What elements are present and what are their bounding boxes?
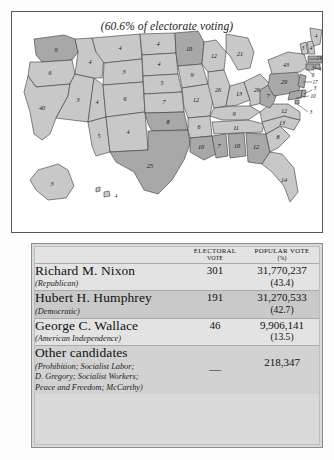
candidate-cell: Richard M. Nixon (Republican) [35,263,187,290]
candidate-party: (Democratic) [35,307,187,318]
electoral-vote-cell: — [187,345,243,393]
ev-label-ME: 4 [315,33,318,39]
header-popular-line1: POPULAR VOTE [255,247,310,254]
candidate-cell: Other candidates (Prohibition; Socialist… [35,345,187,393]
ev-label-PA: 29 [281,78,287,85]
popular-vote-count: 9,906,141 [260,319,304,331]
ev-label-TN: 11 [233,124,239,131]
ev-label-IL: 26 [215,86,222,93]
popular-vote-count: 31,770,237 [257,264,307,276]
candidate-party: (Republican) [35,279,187,290]
ev-label-LA: 10 [198,143,205,150]
ev-label-NM: 4 [126,128,129,135]
party-line: (Prohibition; Socialist Labor; [35,362,187,373]
party-line: D. Gregory; Socialist Workers; [35,372,187,383]
candidate-name: George C. Wallace [35,319,187,334]
popular-vote-cell: 31,270,533 (42.7) [243,291,320,318]
ev-label-RI: 4 [319,66,322,72]
candidate-name: Other candidates [35,346,187,361]
state-DC [295,100,299,104]
ev-label-ND: 4 [156,40,159,47]
electoral-vote-cell: 191 [187,291,243,318]
electoral-vote-cell: 301 [187,263,243,290]
candidate-party: (Prohibition; Socialist Labor; D. Gregor… [35,362,187,394]
ev-label-FL: 14 [281,176,287,183]
ev-label-ID: 4 [88,58,91,65]
table-row: George C. Wallace (American Independence… [35,318,320,345]
candidate-name: Hubert H. Humphrey [35,291,187,306]
ev-label-AL: 10 [234,142,241,149]
ev-label-MD: 10 [310,93,316,99]
party-line: (Republican) [35,279,187,290]
ev-label-IN: 13 [236,90,242,97]
table-header-row: ELECTORAL VOTE POPULAR VOTE (%) [35,247,320,263]
party-line: Peace and Freedom; McCarthy) [35,383,187,394]
ev-label-AK: 3 [49,180,53,187]
header-popular-line2: (%) [243,255,320,262]
ev-label-DE: 3 [314,85,317,91]
ev-label-OH: 26 [254,86,261,93]
table-row: Hubert H. Humphrey (Democratic) 191 31,2… [35,291,320,318]
ev-label-NH: 4 [310,45,313,51]
ev-label-WI: 12 [211,52,217,59]
ev-label-VT: 3 [302,45,305,51]
header-popular-vote: POPULAR VOTE (%) [243,247,320,263]
popular-vote-percent: (13.5) [243,331,320,342]
results-table-inner: ELECTORAL VOTE POPULAR VOTE (%) Richard … [34,246,320,445]
candidate-party: (American Independence) [35,334,187,345]
state-HI-2 [104,191,110,197]
results-table-panel: ELECTORAL VOTE POPULAR VOTE (%) Richard … [31,243,323,448]
ev-label-AZ: 5 [97,132,100,139]
header-electoral-line2: VOTE [187,255,243,262]
ev-label-WY: 3 [121,68,125,75]
ev-label-WA: 9 [54,46,57,53]
ev-label-MA: 14 [316,55,322,61]
state-HI-1 [96,187,100,192]
ev-label-NY: 43 [283,61,289,68]
map-panel: (60.6% of electorate voting) [11,11,323,233]
table-header: ELECTORAL VOTE POPULAR VOTE (%) [35,247,320,263]
header-electoral-line1: ELECTORAL [194,247,237,254]
ev-label-NV: 3 [75,96,79,103]
party-line: (Democratic) [35,307,187,318]
ev-label-HI: 4 [115,193,118,199]
ev-label-MI: 21 [237,50,243,57]
header-candidate [35,247,187,263]
ev-label-GA: 12 [253,143,259,150]
popular-vote-count: 218,347 [264,356,300,368]
election-map-figure: (60.6% of electorate voting) [0,0,334,460]
popular-vote-percent: (43.4) [243,277,320,288]
popular-vote-cell: 31,770,237 (43.4) [243,263,320,290]
popular-vote-percent: (42.7) [243,304,320,315]
ev-label-SD: 4 [157,60,160,67]
ev-label-NC: 13 [279,119,285,126]
ev-label-DC: 3 [310,109,313,115]
candidate-cell: Hubert H. Humphrey (Democratic) [35,291,187,318]
ev-label-UT: 4 [95,98,98,105]
ev-label-TX: 25 [147,162,153,169]
candidate-cell: George C. Wallace (American Independence… [35,318,187,345]
ev-label-NE: 5 [160,79,163,86]
results-table: ELECTORAL VOTE POPULAR VOTE (%) Richard … [35,247,320,394]
popular-vote-cell: 218,347 [243,345,320,393]
ev-label-CT: 8 [312,72,315,78]
popular-vote-count: 31,270,533 [257,291,307,303]
ev-label-MO: 12 [193,96,199,103]
popular-vote-cell: 9,906,141 (13.5) [243,318,320,345]
ev-label-IA: 9 [190,71,193,78]
table-row: Richard M. Nixon (Republican) 301 31,770… [35,263,320,290]
ev-label-MN: 10 [186,45,193,52]
header-electoral-vote: ELECTORAL VOTE [187,247,243,263]
table-body: Richard M. Nixon (Republican) 301 31,770… [35,263,320,394]
us-map: 9 6 40 3 4 4 3 4 5 6 4 4 4 5 7 8 25 [12,12,322,232]
ev-label-CA: 40 [39,104,46,111]
party-line: (American Independence) [35,334,187,345]
electoral-vote-cell: 46 [187,318,243,345]
table-row: Other candidates (Prohibition; Socialist… [35,345,320,393]
ev-label-MT: 4 [118,44,121,51]
candidate-name: Richard M. Nixon [35,264,187,279]
ev-label-KY: 9 [232,110,235,117]
ev-label-VA: 12 [281,107,287,114]
